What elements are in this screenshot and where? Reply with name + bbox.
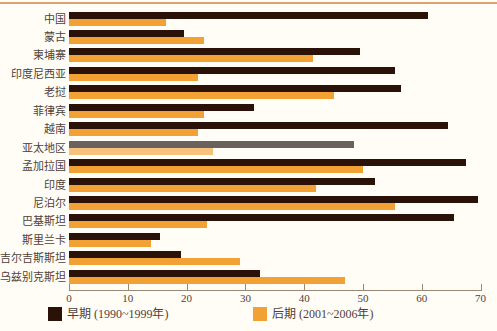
category-label: 孟加拉国 bbox=[0, 159, 66, 173]
x-axis-tick-label: 70 bbox=[466, 292, 496, 304]
category-label: 巴基斯坦 bbox=[0, 214, 66, 228]
category-label: 菲律宾 bbox=[0, 104, 66, 118]
x-axis-tick bbox=[363, 284, 364, 290]
bar-chart-plot-area: 中国蒙古柬埔寨印度尼西亚老挝菲律宾越南亚太地区孟加拉国印度尼泊尔巴基斯坦斯里兰卡… bbox=[0, 0, 497, 305]
bar-early bbox=[69, 141, 354, 148]
category-label: 印度尼西亚 bbox=[0, 67, 66, 81]
category-label: 中国 bbox=[0, 12, 66, 26]
bar-early bbox=[69, 30, 184, 37]
bar-late bbox=[69, 37, 204, 44]
category-label: 吉尔吉斯斯坦 bbox=[0, 251, 66, 265]
x-axis-tick bbox=[245, 284, 246, 290]
bar-late bbox=[69, 92, 334, 99]
legend-label-late-period: 后期 (2001~2006年) bbox=[272, 307, 373, 321]
bar-late bbox=[69, 258, 240, 265]
bar-early bbox=[69, 12, 428, 19]
bar-early bbox=[69, 122, 448, 129]
x-axis-tick bbox=[187, 284, 188, 290]
bar-early bbox=[69, 159, 466, 166]
legend-label-early-period: 早期 (1990~1999年) bbox=[67, 307, 168, 321]
bar-chart-figure: 中国蒙古柬埔寨印度尼西亚老挝菲律宾越南亚太地区孟加拉国印度尼泊尔巴基斯坦斯里兰卡… bbox=[0, 0, 497, 331]
bar-late bbox=[69, 203, 395, 210]
bar-early bbox=[69, 67, 395, 74]
bar-early bbox=[69, 196, 478, 203]
category-label: 乌兹别克斯坦 bbox=[0, 270, 66, 284]
x-axis-tick-label: 30 bbox=[230, 292, 260, 304]
category-label: 老挝 bbox=[0, 85, 66, 99]
bar-early bbox=[69, 233, 160, 240]
category-label: 亚太地区 bbox=[0, 141, 66, 155]
x-axis-tick-label: 10 bbox=[113, 292, 143, 304]
bar-early bbox=[69, 251, 181, 258]
x-axis-tick-label: 0 bbox=[54, 292, 84, 304]
bar-late bbox=[69, 111, 204, 118]
x-axis-tick bbox=[422, 284, 423, 290]
bar-late bbox=[69, 74, 198, 81]
bar-early bbox=[69, 104, 254, 111]
category-label: 印度 bbox=[0, 178, 66, 192]
legend: 早期 (1990~1999年) 后期 (2001~2006年) bbox=[0, 306, 497, 328]
bar-early bbox=[69, 178, 375, 185]
legend-swatch-late-period bbox=[253, 307, 267, 321]
bar-early bbox=[69, 214, 454, 221]
x-axis-tick bbox=[69, 284, 70, 290]
bar-late bbox=[69, 19, 166, 26]
bar-late bbox=[69, 277, 345, 284]
category-label: 蒙古 bbox=[0, 30, 66, 44]
bar-early bbox=[69, 48, 360, 55]
bar-late bbox=[69, 166, 363, 173]
category-label: 尼泊尔 bbox=[0, 196, 66, 210]
x-axis-tick-label: 20 bbox=[172, 292, 202, 304]
bar-early bbox=[69, 270, 260, 277]
x-axis-tick-label: 50 bbox=[348, 292, 378, 304]
x-axis-tick-label: 60 bbox=[407, 292, 437, 304]
legend-swatch-early-period bbox=[48, 307, 62, 321]
bar-early bbox=[69, 85, 401, 92]
bar-late bbox=[69, 55, 313, 62]
x-axis-tick bbox=[304, 284, 305, 290]
x-axis-line bbox=[69, 290, 482, 291]
bar-late bbox=[69, 148, 213, 155]
category-label: 越南 bbox=[0, 122, 66, 136]
x-axis-tick bbox=[128, 284, 129, 290]
bar-late bbox=[69, 185, 316, 192]
x-axis-tick-label: 40 bbox=[289, 292, 319, 304]
category-label: 柬埔寨 bbox=[0, 48, 66, 62]
category-label: 斯里兰卡 bbox=[0, 233, 66, 247]
bar-late bbox=[69, 221, 207, 228]
x-axis-tick bbox=[481, 284, 482, 290]
bar-late bbox=[69, 129, 198, 136]
bar-late bbox=[69, 240, 151, 247]
